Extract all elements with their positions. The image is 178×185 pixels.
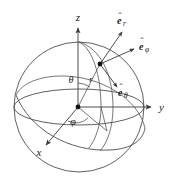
radius-line <box>78 64 100 107</box>
e-theta-base: e <box>118 87 123 98</box>
e-phi-subscript: φ <box>145 45 149 54</box>
point-p-marker <box>98 62 103 67</box>
equator-front-arc <box>14 107 144 125</box>
e-r-label-group: ˆ e r <box>117 11 126 28</box>
figure-canvas: z y x θ φ r ˆ e r ˆ e φ ˆ e θ <box>0 0 178 185</box>
projection-line-origin-to-equator <box>78 107 107 131</box>
origin-point-marker <box>76 105 81 110</box>
y-axis-label: y <box>158 101 164 113</box>
radius-label: r <box>89 74 93 84</box>
e-r-subscript: r <box>123 19 126 28</box>
theta-angle-label: θ <box>69 74 74 85</box>
projection-line-equator-vertical <box>101 107 107 131</box>
e-phi-base: e <box>139 41 144 52</box>
spherical-coordinates-figure: z y x θ φ r ˆ e r ˆ e φ ˆ e θ <box>0 0 178 185</box>
e-theta-arrow <box>100 64 117 87</box>
meridian-arc-through-point <box>79 42 113 151</box>
x-axis-label: x <box>36 146 42 158</box>
e-theta-subscript: θ <box>124 91 128 100</box>
meridian-arc-inner <box>79 42 101 148</box>
e-phi-label-group: ˆ e φ <box>139 36 149 54</box>
z-axis-label: z <box>75 11 81 23</box>
e-theta-label-group: ˆ e θ <box>118 82 128 100</box>
phi-angle-label: φ <box>70 116 76 127</box>
e-r-base: e <box>117 15 122 26</box>
